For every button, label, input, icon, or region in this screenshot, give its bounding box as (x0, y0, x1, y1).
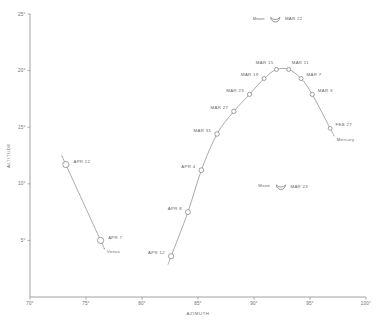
moon-date-label-1: MAR 23 (290, 184, 308, 189)
date-label-venus-1: APR 7 (108, 235, 122, 240)
date-label-venus-0: APR 12 (73, 159, 90, 164)
x-tick-label: 70° (26, 301, 34, 306)
x-tick-label: 80° (138, 301, 146, 306)
marker-mercury-8 (287, 67, 291, 71)
altitude-azimuth-chart: 25°20°15°10°5°70°75°80°85°90°95°100°AZIM… (0, 0, 380, 334)
y-tick-label: 25° (18, 12, 26, 17)
marker-mercury-5 (247, 92, 251, 96)
y-tick-label: 5° (21, 238, 26, 243)
marker-mercury-3 (215, 132, 220, 137)
marker-mercury-0 (169, 254, 174, 259)
date-label-mercury-0: APR 12 (148, 250, 165, 255)
x-axis-title: AZIMUTH (186, 311, 209, 316)
moon-name-label-0: Moon (253, 16, 265, 21)
marker-mercury-10 (310, 92, 314, 96)
body-label-venus: Venus (107, 249, 120, 254)
x-tick-label: 90° (250, 301, 258, 306)
marker-mercury-4 (232, 109, 236, 113)
date-label-mercury-3: MAR 31 (194, 128, 212, 133)
date-label-mercury-10: MAR 3 (318, 88, 333, 93)
moon-date-label-0: MAR 22 (285, 16, 303, 21)
y-tick-label: 15° (18, 125, 26, 130)
chart-canvas: 25°20°15°10°5°70°75°80°85°90°95°100°AZIM… (0, 0, 380, 334)
date-label-mercury-6: MAR 19 (241, 72, 259, 77)
x-tick-label: 75° (82, 301, 90, 306)
marker-mercury-9 (299, 77, 303, 81)
date-label-mercury-8: MAR 11 (292, 60, 310, 65)
x-tick-label: 95° (306, 301, 314, 306)
marker-mercury-1 (185, 210, 190, 215)
x-tick-label: 85° (194, 301, 202, 306)
date-label-mercury-9: MAR 7 (307, 72, 322, 77)
moon-crescent-icon-1 (276, 185, 285, 190)
y-tick-label: 10° (18, 181, 26, 186)
date-label-mercury-7: MAR 15 (256, 60, 274, 65)
marker-mercury-6 (262, 77, 266, 81)
date-label-mercury-1: APR 8 (168, 206, 182, 211)
moon-crescent-icon-0 (271, 17, 280, 22)
marker-mercury-2 (199, 168, 204, 173)
x-tick-label: 100° (361, 301, 371, 306)
marker-mercury-7 (274, 67, 278, 71)
marker-venus-1 (97, 237, 103, 243)
y-axis-title: ALTITUDE (6, 143, 11, 168)
y-tick-label: 20° (18, 68, 26, 73)
moon-name-label-1: Moon (258, 183, 270, 188)
date-label-mercury-4: MAR 27 (211, 105, 229, 110)
track-venus (62, 156, 105, 250)
date-label-mercury-11: FEB 27 (336, 122, 353, 127)
date-label-mercury-5: MAR 23 (226, 88, 244, 93)
body-label-mercury: Mercury (337, 137, 355, 142)
marker-venus-0 (63, 161, 69, 167)
marker-mercury-11 (328, 126, 332, 130)
date-label-mercury-2: APR 4 (181, 164, 195, 169)
